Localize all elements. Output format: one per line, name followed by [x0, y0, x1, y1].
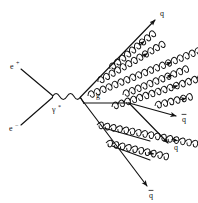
label-virtual-photon: γ * — [51, 104, 61, 114]
electron-line — [21, 98, 53, 126]
electron-superscript: − — [15, 122, 19, 128]
label-antiquark-bottom: q — [149, 190, 154, 200]
electron-label: e — [9, 124, 13, 133]
virtual-photon-propagator — [53, 94, 81, 100]
virtual-photon-superscript: * — [58, 104, 61, 110]
label-positron: e + — [10, 60, 20, 71]
positron-label: e — [10, 62, 14, 71]
antiquark-bottom-label: q — [149, 191, 153, 200]
feynman-diagram-svg: e + e − γ * g q q q q — [0, 0, 198, 203]
gluon-label: g — [96, 91, 100, 100]
gluon-coil-8 — [105, 139, 169, 160]
label-electron: e − — [9, 122, 19, 133]
virtual-photon-label: γ — [51, 105, 56, 114]
antiquark-right-label: q — [182, 115, 186, 124]
vertex-branch-connector — [81, 98, 85, 104]
quark-right-label: q — [174, 143, 178, 152]
feynman-diagram-canvas: e + e − γ * g q q q q — [0, 0, 198, 203]
positron-line — [21, 69, 53, 96]
quark-top-label: q — [160, 9, 164, 18]
label-antiquark-right: q — [182, 114, 187, 124]
positron-superscript: + — [16, 60, 20, 66]
gluon-coil-6 — [154, 93, 193, 109]
